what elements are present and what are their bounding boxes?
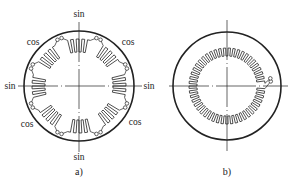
label-sin-top: sin (73, 10, 84, 20)
label-cos-upper-left: cos (27, 38, 40, 48)
label-cos-lower-right: cos (129, 118, 142, 128)
coil-winding (112, 75, 126, 98)
terminal-icon (60, 132, 64, 136)
terminal-icon (269, 77, 273, 81)
terminal-icon (123, 106, 127, 110)
terminal-icon (56, 38, 60, 42)
terminal-icon (125, 67, 129, 71)
terminal-icon (95, 36, 99, 40)
terminal-icon (95, 132, 99, 136)
label-sin-right: sin (143, 82, 154, 92)
terminal-icon (123, 63, 127, 67)
terminal-icon (31, 63, 35, 67)
caption-a: a) (75, 167, 83, 177)
label-cos-lower-left: cos (21, 120, 34, 130)
coil-winding (39, 46, 60, 69)
terminal-icon (56, 130, 60, 134)
label-sin-left: sin (4, 82, 15, 92)
terminal-icon (99, 38, 103, 42)
terminal-icon (29, 102, 33, 106)
caption-b: b) (223, 167, 231, 177)
diagram-canvas: sin sin sin sin cos cos cos cos a) b) (0, 0, 292, 186)
resolver-winding-diagram (0, 0, 292, 186)
terminal-icon (125, 102, 129, 106)
label-cos-upper-right: cos (122, 38, 135, 48)
coil-winding (68, 119, 91, 133)
terminal-icon (31, 106, 35, 110)
coil-winding (98, 104, 119, 127)
coil-winding (39, 105, 62, 126)
coil-winding (68, 39, 91, 53)
terminal-icon (99, 130, 103, 134)
coil-winding (97, 46, 120, 67)
coil-winding (32, 75, 46, 98)
terminal-icon (60, 36, 64, 40)
terminal-icon (29, 67, 33, 71)
label-sin-bottom: sin (73, 153, 84, 163)
